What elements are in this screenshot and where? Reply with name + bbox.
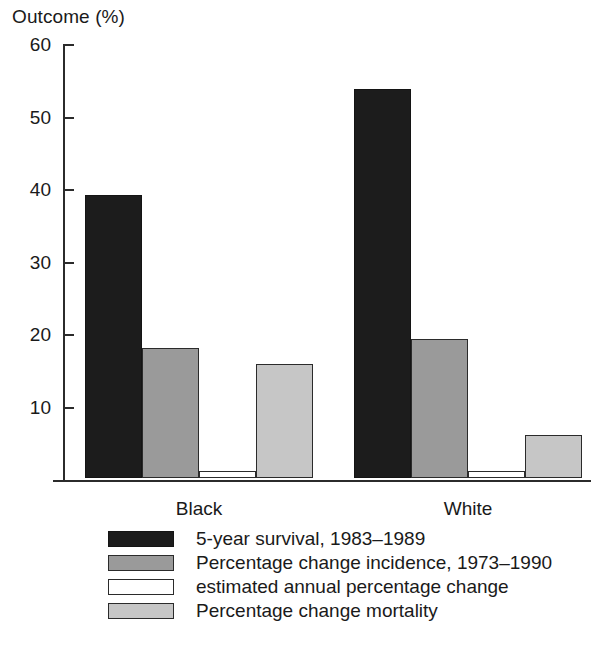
category-label-white: White (408, 498, 528, 520)
y-tick-20 (63, 334, 74, 336)
legend-label-estimated: estimated annual percentage change (196, 577, 509, 597)
legend-item-survival: 5-year survival, 1983–1989 (108, 528, 588, 550)
bar-white-incidence (411, 339, 468, 478)
bar-white-mortality (525, 435, 582, 478)
y-tick-label-50: 50 (5, 108, 51, 127)
legend-swatch-mortality (108, 603, 174, 619)
y-tick-60 (63, 44, 74, 46)
y-axis-title: Outcome (%) (12, 6, 125, 28)
legend-item-mortality: Percentage change mortality (108, 600, 588, 622)
legend-label-survival: 5-year survival, 1983–1989 (196, 529, 425, 549)
y-tick-label-40: 40 (5, 180, 51, 199)
legend-item-estimated: estimated annual percentage change (108, 576, 588, 598)
x-axis-baseline (53, 480, 591, 482)
y-tick-label-20: 20 (5, 325, 51, 344)
plot-area: 102030405060 BlackWhite (63, 45, 591, 480)
y-tick-40 (63, 189, 74, 191)
chart-legend: 5-year survival, 1983–1989Percentage cha… (108, 528, 588, 624)
bar-white-survival (354, 89, 411, 478)
y-tick-label-10: 10 (5, 398, 51, 417)
y-tick-label-60: 60 (5, 35, 51, 54)
legend-label-incidence: Percentage change incidence, 1973–1990 (196, 553, 552, 573)
legend-swatch-incidence (108, 555, 174, 571)
legend-label-mortality: Percentage change mortality (196, 601, 438, 621)
category-label-black: Black (139, 498, 259, 520)
bar-black-estimated (199, 471, 256, 478)
y-tick-10 (63, 407, 74, 409)
bar-black-survival (85, 195, 142, 478)
legend-item-incidence: Percentage change incidence, 1973–1990 (108, 552, 588, 574)
bar-white-estimated (468, 471, 525, 478)
bar-chart-figure: Outcome (%) 102030405060 BlackWhite 5-ye… (0, 0, 613, 652)
legend-swatch-survival (108, 531, 174, 547)
bar-black-mortality (256, 364, 313, 478)
bar-black-incidence (142, 348, 199, 478)
legend-swatch-estimated (108, 579, 174, 595)
y-tick-label-30: 30 (5, 253, 51, 272)
y-tick-50 (63, 117, 74, 119)
y-tick-30 (63, 262, 74, 264)
